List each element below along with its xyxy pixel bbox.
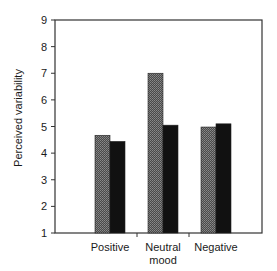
bar-stippled-neutral-mood	[148, 73, 163, 233]
y-axis-title: Perceived variability	[12, 69, 24, 167]
bar-stippled-negative	[201, 127, 216, 233]
bar-solid-positive	[110, 141, 125, 233]
y-tick-label: 6	[41, 94, 47, 106]
x-axis: PositiveNeutralmoodNegative	[91, 233, 238, 266]
y-tick-label: 1	[41, 227, 47, 239]
x-category-label: Neutralmood	[145, 241, 180, 266]
bar-chart: 123456789 PositiveNeutralmoodNegative Pe…	[0, 0, 277, 271]
bar-stippled-positive	[95, 135, 110, 233]
bars	[95, 73, 231, 233]
y-tick-label: 7	[41, 67, 47, 79]
bar-solid-neutral-mood	[163, 125, 178, 233]
y-tick-label: 8	[41, 41, 47, 53]
x-category-label: Negative	[194, 241, 237, 253]
y-tick-label: 2	[41, 200, 47, 212]
y-tick-label: 3	[41, 174, 47, 186]
y-axis: 123456789	[41, 14, 55, 239]
y-tick-label: 9	[41, 14, 47, 26]
y-tick-label: 4	[41, 147, 47, 159]
y-tick-label: 5	[41, 121, 47, 133]
bar-solid-negative	[216, 124, 231, 233]
x-category-label: Positive	[91, 241, 130, 253]
